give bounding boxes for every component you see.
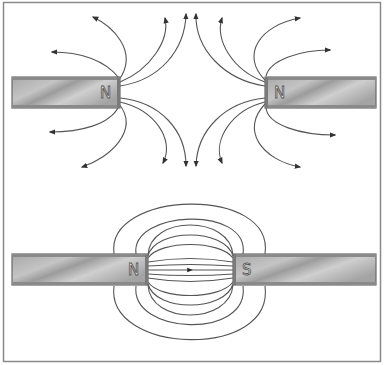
bottom-right-pole-label: S [242,261,252,279]
magnetic-field-diagram: N N N [0,0,386,365]
top-left-magnet: N [12,77,120,108]
bottom-left-magnet: N [12,254,148,285]
top-right-pole-label: N [274,84,285,102]
bottom-left-pole-label: N [128,261,139,279]
top-left-pole-label: N [100,84,111,102]
top-right-magnet: N [265,77,376,108]
bottom-right-magnet: S [233,254,376,285]
diagram-frame [4,3,381,362]
